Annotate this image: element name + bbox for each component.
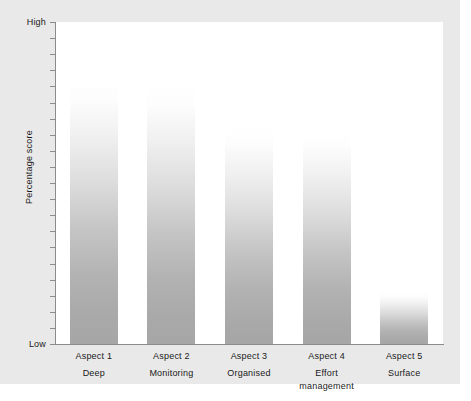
x-axis-label-sublabel: Effort management: [288, 367, 366, 393]
x-axis-label-sublabel: Monitoring: [133, 367, 211, 380]
y-axis-tick: [50, 247, 55, 248]
y-axis-tick: [50, 151, 55, 152]
y-axis-tick: [50, 103, 55, 104]
x-axis-label: Aspect 4Effort management: [288, 350, 366, 393]
x-axis-label-category: Aspect 4: [288, 350, 366, 363]
bar: [380, 292, 428, 344]
y-axis-tick: [50, 119, 55, 120]
x-axis-line: [55, 344, 444, 345]
chart-frame: High Low Percentage score Aspect 1DeepAs…: [0, 0, 460, 384]
x-axis-label-category: Aspect 1: [55, 350, 133, 363]
y-axis-tick: [50, 312, 55, 313]
y-axis-tick: [50, 38, 55, 39]
y-axis-tick: [50, 135, 55, 136]
x-axis-label: Aspect 3Organised: [210, 350, 288, 380]
y-axis-tick: [50, 215, 55, 216]
y-axis-tick: [50, 70, 55, 71]
x-axis-label-sublabel: Deep: [55, 367, 133, 380]
y-axis-tick: [50, 280, 55, 281]
x-axis-label-category: Aspect 3: [210, 350, 288, 363]
y-axis-low-label: Low: [6, 339, 46, 349]
y-axis-tick: [50, 183, 55, 184]
y-axis-tick: [50, 344, 55, 345]
x-axis-label: Aspect 2Monitoring: [133, 350, 211, 380]
bar: [70, 77, 118, 344]
y-axis-tick: [50, 231, 55, 232]
bar: [303, 128, 351, 344]
bar: [225, 125, 273, 344]
y-axis-tick: [50, 264, 55, 265]
y-axis-tick: [50, 86, 55, 87]
x-axis-label-sublabel: Surface: [365, 367, 443, 380]
x-axis-label: Aspect 5Surface: [365, 350, 443, 380]
x-axis-label-category: Aspect 2: [133, 350, 211, 363]
y-axis-line: [55, 22, 56, 345]
figure-container: High Low Percentage score Aspect 1DeepAs…: [0, 0, 471, 401]
y-axis-tick: [50, 22, 55, 23]
y-axis-tick: [50, 328, 55, 329]
x-axis-label-sublabel: Organised: [210, 367, 288, 380]
y-axis-tick: [50, 199, 55, 200]
y-axis-tick: [50, 54, 55, 55]
y-axis-tick: [50, 167, 55, 168]
y-axis-tick: [50, 296, 55, 297]
x-axis-label-category: Aspect 5: [365, 350, 443, 363]
y-axis-title: Percentage score: [24, 112, 34, 222]
bar: [147, 83, 195, 344]
y-axis-high-label: High: [6, 17, 46, 27]
x-axis-label: Aspect 1Deep: [55, 350, 133, 380]
